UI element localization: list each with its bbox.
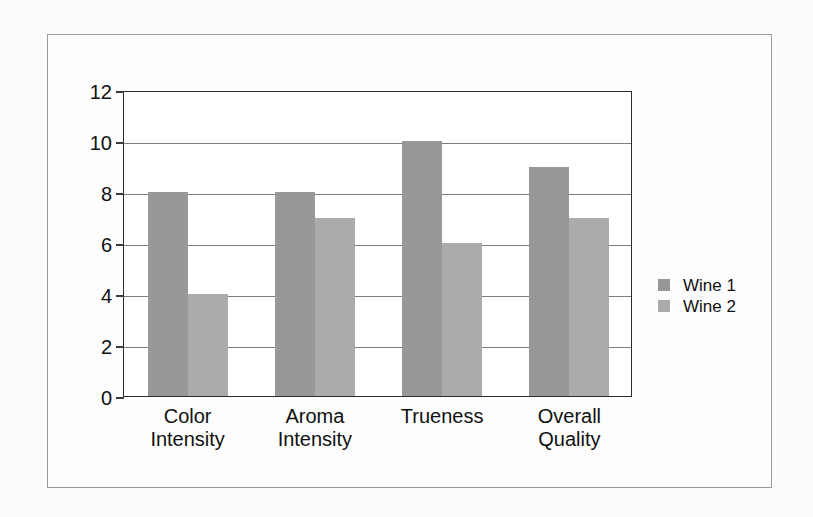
legend-item-wine-2: Wine 2 [658,300,736,312]
bar-series-group [124,92,631,396]
x-axis-label-line: Quality [538,428,601,451]
x-axis-label-line: Intensity [150,428,224,451]
bar-wine-2-overall-quality [569,218,609,397]
bar-wine-2-trueness [442,243,482,396]
x-axis-label-line: Overall [538,405,601,428]
x-axis-label-line: Color [150,405,224,428]
bar-wine-2-aroma-intensity [315,218,355,397]
y-axis-tick-label: 6 [101,235,112,255]
bar-wine-2-color-intensity [188,294,228,396]
y-axis-tick-label: 10 [90,133,112,153]
x-axis-label-trueness: Trueness [401,405,484,428]
x-axis-label-line: Aroma [278,405,352,428]
x-axis-label-aroma-intensity: AromaIntensity [278,405,352,451]
bar-wine-1-color-intensity [148,192,188,396]
legend-swatch-icon [658,300,670,312]
y-axis-tick-mark [116,346,124,347]
y-axis-tick-label: 0 [101,388,112,408]
legend-label: Wine 1 [683,277,736,294]
legend-swatch-icon [658,279,670,291]
y-axis-tick-label: 4 [101,286,112,306]
page-background: 024681012 ColorIntensityAromaIntensityTr… [0,0,813,517]
legend-label: Wine 2 [683,298,736,315]
bar-wine-1-trueness [402,141,442,396]
y-axis-tick-mark [116,295,124,296]
y-axis-tick-mark [116,91,124,92]
figure-frame: 024681012 ColorIntensityAromaIntensityTr… [47,34,772,488]
y-axis-tick-label: 12 [90,82,112,102]
x-axis-label-line: Trueness [401,405,484,428]
y-axis-tick-mark [116,193,124,194]
y-axis-tick-label: 2 [101,337,112,357]
chart-legend: Wine 1Wine 2 [658,279,736,321]
bar-wine-1-aroma-intensity [275,192,315,396]
bar-wine-1-overall-quality [529,167,569,397]
plot-area: 024681012 ColorIntensityAromaIntensityTr… [123,91,632,397]
y-axis-tick-label: 8 [101,184,112,204]
legend-item-wine-1: Wine 1 [658,279,736,291]
x-axis-label-color-intensity: ColorIntensity [150,405,224,451]
y-axis-tick-mark [116,397,124,398]
bar-chart-figure: 024681012 ColorIntensityAromaIntensityTr… [48,35,771,487]
x-axis-label-overall-quality: OverallQuality [538,405,601,451]
y-axis-tick-mark [116,142,124,143]
x-axis-label-line: Intensity [278,428,352,451]
y-axis-tick-mark [116,244,124,245]
